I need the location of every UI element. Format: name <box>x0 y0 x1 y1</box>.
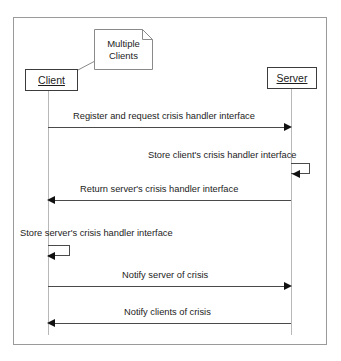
message-3-line <box>54 200 291 201</box>
message-6-arrowhead-icon <box>47 319 55 327</box>
message-6-line <box>54 323 291 324</box>
note-shape-icon <box>94 29 153 70</box>
message-5-arrowhead-icon <box>284 282 292 290</box>
message-1-label: Register and request crisis handler inte… <box>73 112 255 121</box>
note-multiple-clients[interactable]: Multiple Clients <box>94 29 153 70</box>
participant-client-label: Client <box>38 75 65 86</box>
sequence-diagram-canvas: Client Server Multiple Clients Register … <box>0 0 341 361</box>
message-5-label: Notify server of crisis <box>122 271 208 280</box>
message-4-arrowhead-icon <box>47 252 55 260</box>
message-3-arrowhead-icon <box>47 196 55 204</box>
message-1-arrowhead-icon <box>284 123 292 131</box>
message-4-label: Store server's crisis handler interface <box>20 229 173 238</box>
message-6-label: Notify clients of crisis <box>124 308 211 317</box>
participant-client[interactable]: Client <box>25 69 78 91</box>
participant-server[interactable]: Server <box>267 67 317 89</box>
message-5-line <box>48 286 285 287</box>
message-2-label: Store client's crisis handler interface <box>148 151 297 160</box>
message-2-arrowhead-icon <box>292 170 300 178</box>
participant-server-label: Server <box>277 73 308 84</box>
message-3-label: Return server's crisis handler interface <box>80 185 238 194</box>
message-1-line <box>48 127 285 128</box>
